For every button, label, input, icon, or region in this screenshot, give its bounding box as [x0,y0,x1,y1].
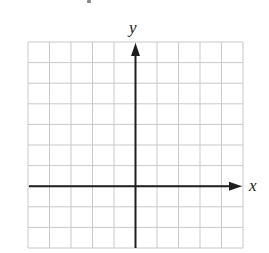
x-axis-label: x [248,176,257,195]
x-axis-arrow-icon [229,182,242,191]
coordinate-grid: x y [0,0,269,253]
y-axis-arrow-icon [131,43,140,56]
y-axis-label: y [127,18,137,37]
